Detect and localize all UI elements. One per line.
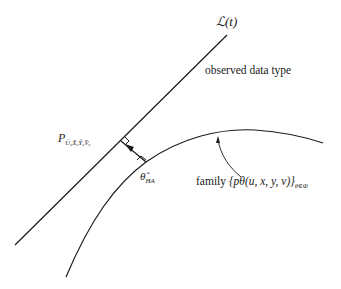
model-family-curve: [66, 130, 323, 277]
projection-segment: [121, 141, 146, 162]
estimate-subscript: HA: [145, 177, 154, 185]
family-pointer-arrow: [218, 139, 241, 177]
diagram-canvas: [0, 0, 341, 289]
family-pointer-arrowhead-icon: [216, 136, 220, 143]
line-label: ℒ(t): [216, 14, 237, 30]
projection-subscript: Ü₀X̂₀Ŷ₀V̂₀: [65, 139, 90, 146]
family-expression: {pθ(u, x, y, v)}: [229, 175, 295, 187]
family-label: family {pθ(u, x, y, v)}θ∈Φ: [196, 175, 308, 190]
family-prefix: family: [196, 175, 229, 187]
right-angle-marker-line: [125, 137, 129, 145]
estimate-label: θ̂HA: [140, 170, 155, 185]
projection-label: PÜ₀X̂₀Ŷ₀V̂₀: [58, 131, 91, 146]
observed-data-type-label: observed data type: [205, 64, 291, 76]
observed-data-line: [15, 35, 227, 245]
family-subscript: θ∈Φ: [295, 182, 308, 189]
